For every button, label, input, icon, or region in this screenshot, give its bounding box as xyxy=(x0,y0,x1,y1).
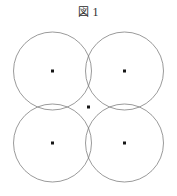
dot-bottom-left-center xyxy=(51,142,54,145)
dot-common-intersection xyxy=(87,106,90,109)
figure-container: 図1 xyxy=(0,0,177,196)
figure-diagram-canvas xyxy=(0,0,177,196)
dot-top-right-center xyxy=(123,70,126,73)
dot-top-left-center xyxy=(51,70,54,73)
center-dots-group xyxy=(51,70,126,145)
dot-bottom-right-center xyxy=(123,142,126,145)
